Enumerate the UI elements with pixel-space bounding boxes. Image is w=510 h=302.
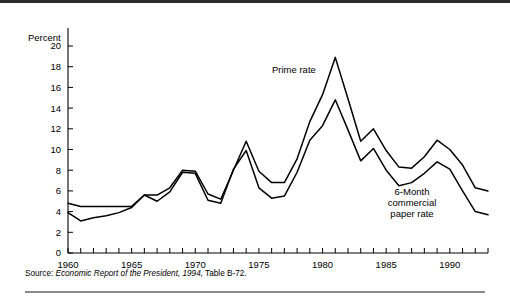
x-tick-label: 1985 [376,259,397,270]
source-label: Source: [25,269,53,278]
annotation-cp-line2: commercial [388,197,437,208]
annotation-cp-line1: 6-Month [395,186,430,197]
series-line-prime-rate [68,57,488,206]
y-axis-title: Percent [28,32,61,43]
y-tick-label: 16 [50,82,61,93]
y-axis: 02468101214161820 [50,28,73,258]
y-tick-label: 10 [50,144,61,155]
x-axis: 1960196519701975198019851990 [57,248,488,270]
figure-container: 02468101214161820 1960196519701975198019… [0,0,510,302]
y-tick-label: 4 [56,206,61,217]
x-tick-label: 1990 [439,259,460,270]
chart-plot-area: 02468101214161820 1960196519701975198019… [0,0,510,302]
x-tick-label: 1975 [248,259,269,270]
y-tick-label: 12 [50,123,61,134]
source-publication: Economic Report of the President, 1994, [56,269,203,278]
source-note: Source: Economic Report of the President… [25,268,247,279]
y-tick-label: 8 [56,165,61,176]
y-tick-label: 14 [50,103,61,114]
y-tick-label: 18 [50,61,61,72]
source-table-ref: Table B-72. [205,269,246,278]
bottom-divider-rule [25,291,485,293]
annotation-prime-rate: Prime rate [272,64,316,75]
y-tick-label: 6 [56,185,61,196]
annotation-cp-line3: paper rate [390,208,433,219]
line-chart-svg: 02468101214161820 1960196519701975198019… [0,0,510,302]
x-tick-label: 1980 [312,259,333,270]
y-tick-label: 2 [56,227,61,238]
y-tick-label: 0 [56,247,61,258]
